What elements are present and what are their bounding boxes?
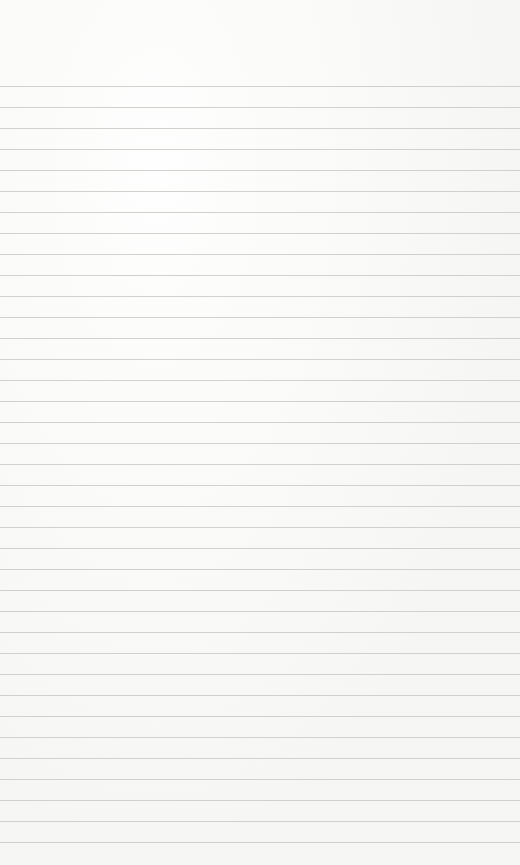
note-text[interactable]: [0, 0, 520, 865]
lined-paper[interactable]: [0, 0, 520, 865]
